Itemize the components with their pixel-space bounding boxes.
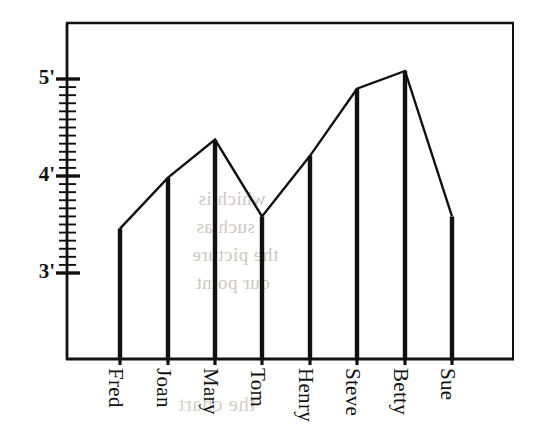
x-axis-label-joan: Joan <box>151 368 176 408</box>
y-axis-tick-label: 3' <box>15 259 55 284</box>
y-axis-tick-label: 5' <box>15 65 55 90</box>
x-axis-label-fred: Fred <box>103 368 128 408</box>
x-axis-label-henry: Henry <box>293 368 318 422</box>
chart-container: which is such as the picture our point t… <box>0 0 538 443</box>
x-axis-label-betty: Betty <box>388 368 413 415</box>
x-axis-label-mary: Mary <box>198 368 223 415</box>
y-axis-tick-label: 4' <box>15 162 55 187</box>
x-axis-label-steve: Steve <box>340 368 365 416</box>
x-axis-label-sue: Sue <box>435 368 460 400</box>
x-axis-label-tom: Tom <box>245 368 270 407</box>
chart-bars <box>120 71 452 359</box>
chart-frame <box>66 23 514 360</box>
